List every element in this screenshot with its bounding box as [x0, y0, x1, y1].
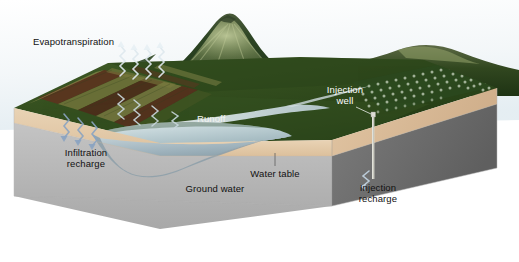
label-infiltration-recharge-line2: recharge: [67, 158, 105, 169]
label-evapotranspiration: Evapotranspiration: [33, 36, 114, 47]
label-infiltration-recharge-line1: Infiltration: [65, 147, 107, 158]
diagram-canvas: Evapotranspiration Runoff Infiltration r…: [0, 0, 519, 262]
label-water-table: Water table: [250, 168, 299, 179]
label-ground-water: Ground water: [186, 183, 245, 194]
label-injection-well-line2: well: [336, 95, 354, 106]
block-diagram-svg: Evapotranspiration Runoff Infiltration r…: [0, 0, 519, 262]
label-injection-well-line1: Injection: [327, 84, 363, 95]
label-injection-recharge-line2: recharge: [359, 193, 397, 204]
label-injection-recharge-line1: Injection: [360, 182, 396, 193]
label-runoff: Runoff: [197, 113, 226, 124]
